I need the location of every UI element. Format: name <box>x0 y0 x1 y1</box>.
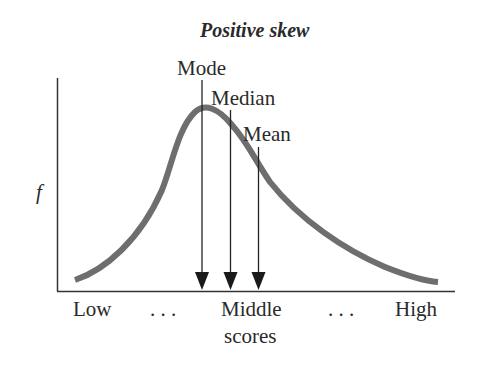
median-label: Median <box>211 88 275 109</box>
x-label-scores: scores <box>224 326 276 347</box>
mean-label: Mean <box>243 124 291 145</box>
x-label-high: High <box>395 299 437 320</box>
x-label-dots-left: . . . <box>150 299 176 320</box>
x-label-dots-right: . . . <box>328 299 354 320</box>
x-label-low: Low <box>73 299 112 320</box>
y-axis-label: f <box>36 182 42 203</box>
median-arrow <box>224 110 238 290</box>
mode-label: Mode <box>177 58 226 79</box>
x-label-middle: Middle <box>221 299 282 320</box>
